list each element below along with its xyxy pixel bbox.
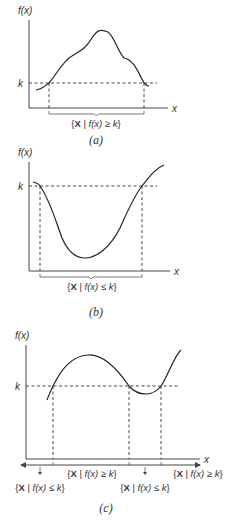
k-label: k [15,381,21,392]
y-axis-label: f(x) [15,330,29,341]
set-label: {X | f(x) ≥ k} [71,118,120,129]
panel-c: f(x)xk{X | f(x) ≥ k}{X | f(x) ≥ k}{X | f… [15,330,223,515]
function-curve [33,165,164,258]
y-axis-label: f(x) [18,147,32,158]
down-arrow-head [143,472,147,475]
panel-caption: (b) [89,305,103,319]
set-label: {X | f(x) ≤ k} [67,281,116,292]
function-curve [36,30,149,90]
panel-caption: (a) [89,133,103,147]
x-axis-label: x [171,103,178,114]
set-label: {X | f(x) ≤ k} [120,482,169,493]
set-label: {X | f(x) ≥ k} [173,468,222,479]
panel-b: f(x)xk{X | f(x) ≤ k}(b) [18,147,180,319]
panel-caption: (c) [99,501,112,515]
y-axis-label: f(x) [18,5,32,16]
set-brace [40,274,142,279]
k-label: k [18,181,24,192]
panel-a: f(x)xk{X | f(x) ≥ k}(a) [18,5,178,147]
x-axis-label: x [173,266,180,277]
set-label: {X | f(x) ≤ k} [15,482,64,493]
down-arrow-head [38,472,42,475]
x-axis-label: x [203,454,210,465]
level-set-figure: f(x)xk{X | f(x) ≥ k}(a)f(x)xk{X | f(x) ≤… [0,0,234,525]
set-brace [49,111,144,116]
set-label: {X | f(x) ≥ k} [67,468,116,479]
k-label: k [18,78,24,89]
